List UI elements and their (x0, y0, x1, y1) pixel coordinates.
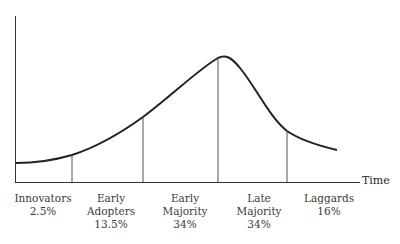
segment-innovators: Innovators 2.5% (8, 192, 78, 218)
segment-percent: 2.5% (8, 205, 78, 218)
segment-name: Early (76, 192, 146, 205)
segment-name: Early (150, 192, 220, 205)
segment-early-majority: Early Majority 34% (150, 192, 220, 231)
segment-name-2: Majority (224, 205, 294, 218)
segment-early-adopters: Early Adopters 13.5% (76, 192, 146, 231)
segment-percent: 34% (150, 218, 220, 231)
segment-laggards: Laggards 16% (294, 192, 364, 218)
segment-name: Laggards (294, 192, 364, 205)
x-axis-label: Time (362, 174, 390, 187)
segment-name: Late (224, 192, 294, 205)
adoption-curve (16, 56, 337, 163)
segment-late-majority: Late Majority 34% (224, 192, 294, 231)
segment-percent: 16% (294, 205, 364, 218)
segment-percent: 34% (224, 218, 294, 231)
segment-name-2: Majority (150, 205, 220, 218)
segment-name: Innovators (8, 192, 78, 205)
segment-percent: 13.5% (76, 218, 146, 231)
segment-name-2: Adopters (76, 205, 146, 218)
